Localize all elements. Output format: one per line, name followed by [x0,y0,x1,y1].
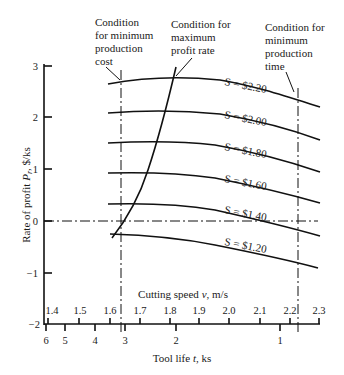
curve-label: S = $2.20 [224,75,269,95]
speed-tick-label: 1.7 [133,305,146,316]
tool-life-tick-label: 6 [43,335,48,346]
annotation-min-cost: Condition for minimum production cost [95,16,156,67]
y-axis: 3 2 1 0 −1 −2 Rate of profit Pr, $/ks [20,61,52,330]
annotation-min-time: Condition for minimum production time [265,21,327,72]
curve-label: S = $1.80 [224,140,269,160]
curve-labels: S = $2.20 S = $2.00 S = $1.80 S = $1.60 … [224,75,269,255]
curve-label: S = $1.40 [224,203,269,223]
tool-life-tick-label: 5 [62,335,67,346]
curve-label: S = $1.60 [224,172,269,192]
profit-curves [108,67,320,268]
max-profit-curve [112,67,176,238]
curve-s-1-60 [108,173,320,203]
speed-tick-label: 1.8 [163,305,176,316]
curve-s-2-00 [108,111,320,140]
y-tick-label: −1 [27,268,38,279]
speed-tick-label: 2.3 [312,305,325,316]
curve-s-2-20 [108,78,320,107]
annotation-max-profit: Condition for maximum profit rate [171,18,233,56]
speed-tick-label: 1.4 [45,305,59,316]
speed-tick-label: 1.6 [103,305,116,316]
tool-life-tick-label: 3 [122,335,127,346]
y-tick-label: −2 [29,319,40,330]
curve-label: S = $2.00 [224,108,269,128]
speed-axis-label: Cutting speed v, m/s [138,288,228,300]
tool-life-tick-label: 1 [277,335,282,346]
speed-tick-label: 1.5 [73,305,86,316]
y-tick-label: 3 [33,61,38,72]
profit-rate-chart: 3 2 1 0 −1 −2 Rate of profit Pr, $/ks 1.… [0,0,344,375]
speed-tick-label: 2.0 [222,305,235,316]
curve-s-1-40 [108,204,320,236]
speed-tick-label: 2.2 [283,305,296,316]
x-axis: 1.4 1.5 1.6 1.7 1.8 1.9 2.0 2.1 2.2 2.3 … [43,288,325,364]
tool-life-tick-label: 2 [173,335,178,346]
y-axis-label: Rate of profit Pr, $/ks [20,147,34,243]
tool-life-axis-label: Tool life t, ks [153,352,212,364]
curve-s-1-20 [110,234,318,268]
curve-label: S = $1.20 [224,235,269,255]
tool-life-tick-label: 4 [92,335,98,346]
curve-s-1-80 [108,142,320,172]
y-tick-label: 0 [33,216,38,227]
y-tick-label: 2 [33,112,38,123]
speed-tick-label: 1.9 [192,305,205,316]
speed-tick-label: 2.1 [253,305,266,316]
